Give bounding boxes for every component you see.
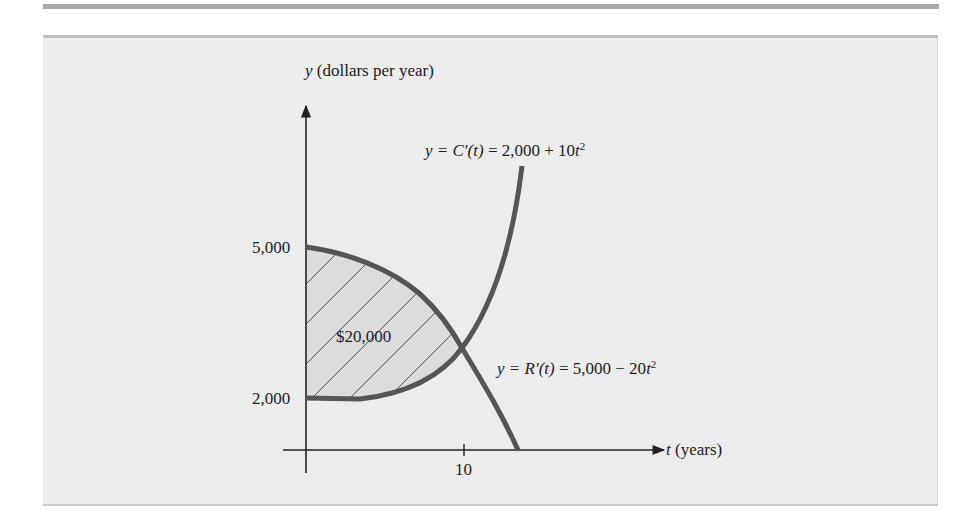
cost-curve-equation: y = C′(t) = 2,000 + 10t2: [425, 142, 585, 159]
x-axis-label: t (years): [666, 441, 722, 458]
x-tick-label-10: 10: [455, 461, 472, 478]
y-axis-label: y (dollars per year): [305, 62, 434, 79]
y-tick-label-2000: 2,000: [252, 390, 290, 407]
shaded-region-label: $20,000: [336, 328, 391, 345]
revenue-curve-equation: y = R′(t) = 5,000 − 20t2: [497, 360, 656, 377]
chart-plot: [0, 0, 971, 528]
y-tick-label-5000: 5,000: [252, 239, 290, 256]
